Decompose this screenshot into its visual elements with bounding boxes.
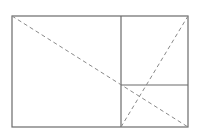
golden-rectangle-diagram xyxy=(0,0,199,140)
sub-diagonal-dashed-line xyxy=(121,16,188,127)
main-diagonal-dashed-line xyxy=(12,16,188,127)
